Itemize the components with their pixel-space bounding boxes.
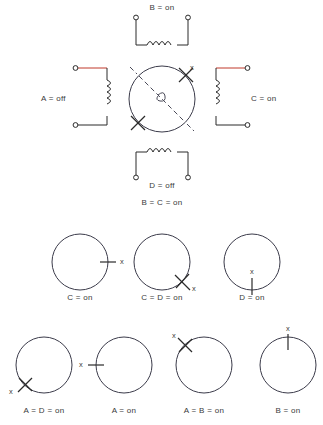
diagram-canvas: B = on A = off C = on <box>0 0 323 425</box>
step-b-on-label: B = on <box>275 406 300 415</box>
step-b-on-marker-x: x <box>286 324 290 333</box>
step-b-on-figure <box>0 0 323 425</box>
